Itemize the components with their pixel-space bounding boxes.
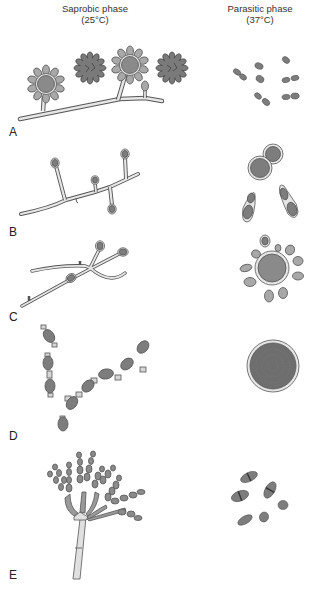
row-e-parasitic-fission-yeasts	[230, 469, 288, 527]
row-b-saprobic-hyphae	[21, 157, 138, 214]
row-e-saprobic-penicillus	[48, 451, 146, 579]
row-d-saprobic-arthroconidia	[41, 325, 151, 431]
row-a-macroconidium-2	[111, 46, 149, 84]
row-a-macroconidium-1	[27, 65, 65, 103]
row-a-parasitic-yeasts	[232, 55, 299, 107]
diagram-canvas	[0, 0, 311, 589]
row-d-parasitic-spherule	[247, 340, 299, 392]
row-a-tuberculate-conidium-1	[74, 52, 106, 84]
row-b-parasitic-budding-yeasts	[242, 144, 299, 222]
row-a-tuberculate-conidium-2	[156, 52, 188, 84]
row-c-parasitic-multibudding-yeast	[239, 235, 303, 302]
